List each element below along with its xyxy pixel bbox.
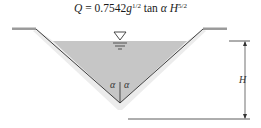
v-notch-weir-diagram xyxy=(0,0,261,128)
formula-coefficient: 0.7542 xyxy=(95,2,127,14)
formula-q: Q xyxy=(74,2,82,14)
formula-h: H xyxy=(170,2,178,14)
weir-flow-formula: Q = 0.7542g1/2 tan α H5/2 xyxy=(0,2,261,14)
formula-g-exponent: 1/2 xyxy=(132,2,141,10)
angle-left-label: α xyxy=(110,79,115,90)
formula-alpha: α xyxy=(161,2,167,14)
formula-tan: tan xyxy=(144,2,158,14)
height-label: H xyxy=(239,74,246,85)
formula-h-exponent: 5/2 xyxy=(178,2,187,10)
angle-right-label: α xyxy=(124,79,129,90)
formula-equals: = xyxy=(85,2,92,14)
